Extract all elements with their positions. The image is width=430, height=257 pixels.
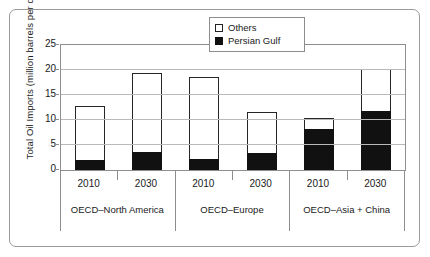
x-axis-group-separator [289, 197, 290, 231]
plot-area [60, 44, 406, 171]
bars-container [61, 45, 405, 170]
x-axis-separator [232, 171, 233, 180]
y-tick-mark-25 [54, 44, 59, 45]
bar-2030-group2 [247, 112, 277, 170]
x-year-label: 2010 [192, 178, 214, 190]
bar-segment-others [189, 77, 219, 170]
x-axis-year-row: 201020302010203020102030 [60, 171, 406, 197]
x-axis-group-separator [60, 197, 61, 231]
legend-label: Others [228, 23, 257, 33]
y-tick-mark-5 [54, 144, 59, 145]
x-axis-separator [175, 171, 176, 197]
x-year-label-cell: 2010 [175, 171, 232, 197]
bar-2030-group1 [132, 73, 162, 171]
chart-legend: OthersPersian Gulf [209, 17, 305, 52]
x-region-label: OECD–Asia + China [303, 204, 390, 215]
y-tick-mark-0 [54, 169, 59, 170]
legend-item: Others [215, 21, 299, 34]
x-year-label-cell: 2030 [117, 171, 174, 197]
x-axis-separator [60, 171, 61, 197]
x-region-label-cell: OECD–Asia + China [289, 197, 404, 231]
x-year-label: 2030 [135, 178, 157, 190]
gridline-15 [61, 94, 405, 95]
gridline-10 [61, 119, 405, 120]
figure-frame: Total Oil Imports (million barrels per d… [9, 9, 420, 247]
y-axis-tick-labels: 0510152025 [26, 38, 56, 177]
x-axis-region-row: OECD–North AmericaOECD–EuropeOECD–Asia +… [60, 197, 406, 231]
x-year-label-cell: 2010 [289, 171, 346, 197]
bar-segment-persian-gulf [304, 129, 334, 170]
bar-segment-persian-gulf [247, 153, 277, 170]
filled-square-icon [215, 37, 223, 45]
x-axis-separator [404, 171, 405, 197]
x-year-label-cell: 2030 [232, 171, 289, 197]
legend-item: Persian Gulf [215, 34, 299, 47]
bar-segment-persian-gulf [132, 152, 162, 170]
x-axis-separator [347, 171, 348, 180]
x-year-label: 2030 [250, 178, 272, 190]
x-year-label-cell: 2030 [347, 171, 404, 197]
x-region-label: OECD–North America [71, 204, 164, 215]
x-year-label-cell: 2010 [60, 171, 117, 197]
x-region-label: OECD–Europe [200, 204, 263, 215]
bar-segment-persian-gulf [189, 159, 219, 170]
x-year-label: 2030 [364, 178, 386, 190]
legend-label: Persian Gulf [228, 36, 280, 46]
open-square-icon [215, 24, 223, 32]
x-axis-group-separator [175, 197, 176, 231]
x-axis-separator [289, 171, 290, 197]
y-tick-mark-20 [54, 69, 59, 70]
x-region-label-cell: OECD–North America [60, 197, 175, 231]
x-axis-separator [117, 171, 118, 180]
gridline-5 [61, 144, 405, 145]
x-year-label: 2010 [307, 178, 329, 190]
y-tick-mark-15 [54, 94, 59, 95]
bar-2010-group1 [75, 106, 105, 170]
gridline-20 [61, 69, 405, 70]
bar-segment-persian-gulf [75, 160, 105, 170]
y-tick-mark-10 [54, 119, 59, 120]
x-year-label: 2010 [78, 178, 100, 190]
x-axis-group-separator [404, 197, 405, 231]
bar-2010-group2 [189, 77, 219, 170]
x-region-label-cell: OECD–Europe [175, 197, 290, 231]
